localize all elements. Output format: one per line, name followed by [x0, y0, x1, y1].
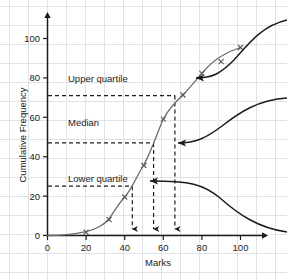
y-tick-label-80: 80 [29, 72, 40, 83]
x-tick-label-80: 80 [197, 242, 208, 253]
lower-quartile-pointer-arrow [150, 181, 287, 232]
median-pointer-arrow [178, 98, 287, 143]
marker-90 [219, 59, 224, 64]
x-axis-title: Marks [145, 257, 171, 268]
y-tick-label-40: 40 [29, 151, 40, 162]
y-tick-label-0: 0 [35, 230, 40, 241]
lower-quartile-label: Lower quartile [68, 173, 128, 184]
x-tick-label-40: 40 [119, 242, 130, 253]
plot-area: 0 20 40 60 80 100 0 20 40 60 80 100 Mark… [0, 0, 287, 280]
x-tick-label-60: 60 [158, 242, 169, 253]
marker-70 [180, 93, 185, 98]
y-axis-title: Cumulative Frequency [17, 87, 28, 182]
y-tick-label-60: 60 [29, 112, 40, 123]
reference-lines [48, 96, 175, 229]
x-tick-label-20: 20 [81, 242, 92, 253]
x-tick-label-0: 0 [45, 242, 50, 253]
y-tick-label-100: 100 [24, 33, 40, 44]
cumulative-frequency-chart: 0 20 40 60 80 100 0 20 40 60 80 100 Mark… [0, 0, 287, 280]
x-tick-label-100: 100 [233, 242, 249, 253]
marker-80 [199, 71, 204, 76]
marker-60 [161, 117, 166, 122]
upper-quartile-label: Upper quartile [68, 73, 128, 84]
median-label: Median [68, 117, 99, 128]
annotation-arrows [150, 20, 287, 232]
x-tick-labels: 0 20 40 60 80 100 [45, 242, 249, 253]
marker-40 [122, 195, 127, 200]
y-tick-label-20: 20 [29, 191, 40, 202]
